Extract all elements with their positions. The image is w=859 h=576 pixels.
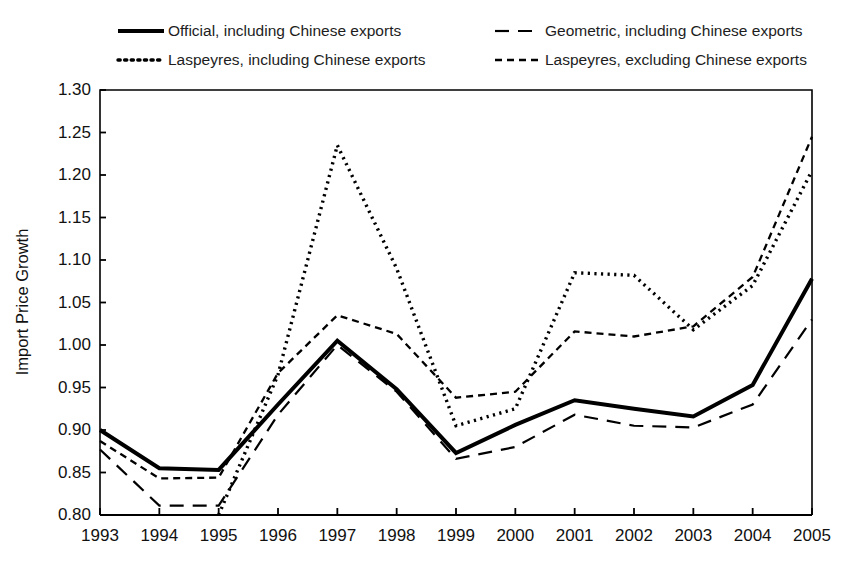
- x-tick-label: 2004: [734, 526, 772, 545]
- x-tick-label: 1993: [81, 526, 119, 545]
- y-tick-label: 0.80: [58, 505, 91, 524]
- legend-label-3: Laspeyres, excluding Chinese exports: [545, 51, 807, 68]
- x-tick-label: 2001: [556, 526, 594, 545]
- legend-label-1: Geometric, including Chinese exports: [545, 22, 803, 39]
- y-axis-title: Import Price Growth: [13, 229, 31, 376]
- chart-background: [0, 0, 859, 576]
- y-tick-label: 1.20: [58, 165, 91, 184]
- y-tick-label: 1.10: [58, 250, 91, 269]
- legend-label-2: Laspeyres, including Chinese exports: [168, 51, 426, 68]
- y-tick-label: 1.15: [58, 208, 91, 227]
- y-tick-label: 0.90: [58, 420, 91, 439]
- y-tick-label: 1.00: [58, 335, 91, 354]
- import-price-growth-chart: Official, including Chinese exportsGeome…: [0, 0, 859, 576]
- y-tick-label: 0.85: [58, 463, 91, 482]
- x-tick-label: 1995: [200, 526, 238, 545]
- x-tick-label: 2005: [793, 526, 831, 545]
- x-tick-label: 2003: [674, 526, 712, 545]
- y-tick-label: 1.25: [58, 123, 91, 142]
- x-tick-label: 2000: [496, 526, 534, 545]
- x-tick-label: 1997: [318, 526, 356, 545]
- x-tick-label: 1999: [437, 526, 475, 545]
- y-tick-label: 1.05: [58, 293, 91, 312]
- x-tick-label: 1996: [259, 526, 297, 545]
- y-tick-label: 1.30: [58, 80, 91, 99]
- x-tick-label: 2002: [615, 526, 653, 545]
- x-tick-label: 1998: [378, 526, 416, 545]
- legend-label-0: Official, including Chinese exports: [168, 22, 401, 39]
- x-tick-label: 1994: [140, 526, 178, 545]
- y-tick-label: 0.95: [58, 378, 91, 397]
